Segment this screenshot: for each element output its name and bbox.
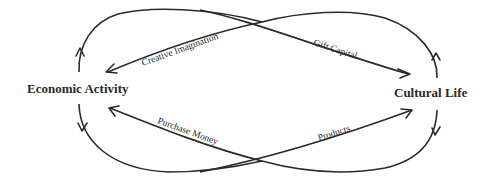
products-arrow [200,110,412,172]
right-loop-down-arrow-icon [432,127,440,135]
left-loop-lower-arc [79,104,262,172]
edge-label-products: Products [317,123,352,143]
edge-label-purchase-money: Purchase Money [156,115,219,146]
edge-label-gift-capital: Gift Capital [312,37,358,61]
node-economic-activity: Economic Activity [27,81,129,96]
figure-eight-exchange-diagram: Economic Activity Cultural Life Creative… [0,0,491,183]
gift-capital-arrow [200,10,408,74]
edge-label-creative-imagination: Creative Imagination [140,31,219,68]
node-cultural-life: Cultural Life [394,85,468,100]
right-loop-up-arrow-icon [432,53,440,60]
right-loop-lower-arc [262,110,437,172]
right-loop-upper-arc [262,12,437,78]
